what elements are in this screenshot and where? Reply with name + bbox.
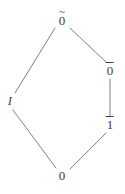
node-zero-tilde: 0~ — [59, 13, 66, 27]
hasse-diagram: 0~0I10 — [0, 0, 125, 194]
node-glyph-zero-node: 0 — [59, 168, 66, 182]
node-base-zero-node: 0 — [59, 169, 66, 182]
node-glyph-zero-tilde: 0~ — [59, 13, 66, 27]
node-glyph-i-node: I — [8, 94, 12, 108]
node-zero-node: 0 — [59, 168, 66, 182]
overline-accent-one-bar — [106, 116, 114, 117]
edge-one-bar-to-zero-node — [70, 133, 106, 169]
node-base-zero-bar: 0 — [107, 64, 114, 77]
node-base-i-node: I — [8, 95, 12, 108]
edge-zero-tilde-to-i-node — [15, 28, 55, 93]
node-base-one-bar: 1 — [107, 118, 114, 131]
edge-zero-tilde-to-zero-bar — [70, 28, 106, 62]
overline-accent-zero-bar — [106, 62, 114, 63]
edge-layer — [0, 0, 125, 194]
node-glyph-zero-bar: 0 — [107, 63, 114, 77]
edge-i-node-to-zero-node — [13, 110, 56, 168]
tilde-accent-zero-tilde: ~ — [59, 6, 65, 17]
node-zero-bar: 0 — [107, 63, 114, 77]
node-i-node: I — [8, 94, 12, 108]
node-glyph-one-bar: 1 — [107, 117, 114, 131]
edges-group — [13, 28, 110, 169]
node-one-bar: 1 — [107, 117, 114, 131]
